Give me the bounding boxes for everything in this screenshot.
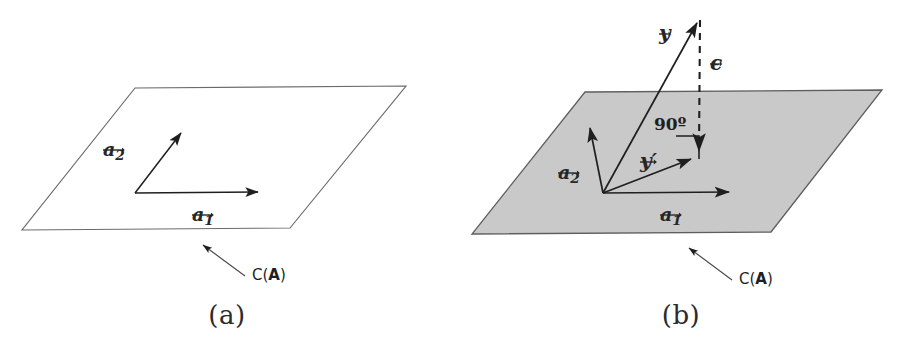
label-a2-subscript: 2: [570, 170, 580, 186]
label-epsilon-base: ϵ: [710, 51, 722, 75]
label-column-space-a: C(A): [252, 268, 286, 283]
ca-suffix: ): [767, 270, 773, 288]
label-column-space-b: C(A): [739, 272, 773, 287]
plane-outline-a: [22, 86, 406, 230]
label-a2-subscript: 2: [115, 147, 125, 163]
vector-a1-shaft: [603, 192, 729, 193]
ca-prefix: C(: [252, 266, 268, 284]
label-yprime-prime: ′: [652, 149, 657, 173]
ca-prefix: C(: [739, 270, 755, 288]
label-a2-base: a: [558, 161, 570, 183]
label-right-angle: 90º: [654, 116, 686, 133]
label-yprime-base: y: [640, 149, 652, 173]
vector-a1-shaft: [135, 192, 258, 193]
label-a1-base: a: [192, 203, 204, 225]
label-y-base: y: [659, 21, 671, 45]
vector-epsilon-shaft: [699, 20, 700, 150]
ca-matrix-symbol: A: [755, 270, 767, 288]
label-vector-yprime: y′: [640, 146, 657, 171]
label-a2-base: a: [103, 138, 115, 160]
caption-panel-a: (a): [0, 300, 454, 330]
label-vector-a2: a2: [103, 135, 125, 159]
panel-b: y ϵ 90º: [454, 0, 908, 364]
label-vector-y: y: [659, 18, 671, 43]
label-vector-a2: a2: [558, 158, 580, 182]
label-vector-a1: a1: [660, 200, 682, 224]
ca-matrix-symbol: A: [268, 266, 280, 284]
caption-panel-b: (b): [454, 300, 908, 330]
figure-root: a2 a1 C(A) (a): [0, 0, 908, 364]
panel-a: a2 a1 C(A) (a): [0, 0, 454, 364]
ca-suffix: ): [280, 266, 286, 284]
callout-line-ca-a: [203, 245, 245, 276]
label-vector-a1: a1: [192, 200, 214, 224]
label-a1-base: a: [660, 203, 672, 225]
label-vector-epsilon: ϵ: [710, 48, 722, 73]
label-a1-subscript: 1: [204, 212, 214, 228]
label-a1-subscript: 1: [672, 212, 682, 228]
callout-line-ca-b: [689, 248, 732, 280]
